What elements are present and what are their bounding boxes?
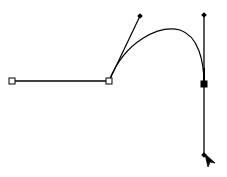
handle-point-end-in[interactable] [201,12,207,18]
bezier-path-canvas[interactable] [0,0,227,177]
anchor-point-middle[interactable] [106,78,112,84]
anchor-point-start[interactable] [9,78,15,84]
anchor-point-end-selected[interactable] [201,81,207,87]
handle-point-middle-out[interactable] [137,13,143,19]
direct-selection-arrow-icon [205,154,215,167]
handle-line-middle [109,16,140,81]
path-segment-curve[interactable] [109,29,204,84]
